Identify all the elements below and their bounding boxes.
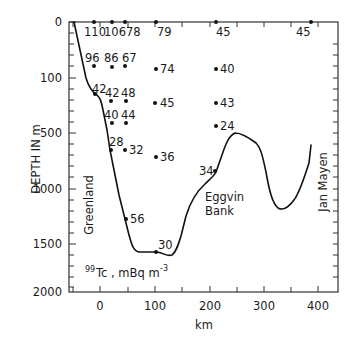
unit-isotope-mass: 99	[85, 265, 95, 274]
point-label: 34	[199, 164, 214, 178]
point-label: 36	[160, 150, 175, 164]
eggvin-bank-label-line2: Bank	[205, 204, 234, 218]
point-label: 110	[84, 25, 106, 39]
point-label: 45	[160, 96, 175, 110]
x-tick-labels: 0 100 200 300 400	[96, 299, 329, 313]
point-label: 45	[296, 25, 311, 39]
unit-text: Tc , mBq m	[95, 266, 160, 280]
unit-annotation: 99 Tc , mBq m -3	[85, 264, 168, 280]
point-label: 28	[109, 135, 124, 149]
depth-section-chart: 0 100 500 1000 1500 2000 0 100 200 300 4…	[0, 0, 357, 347]
eggvin-bank-label-line1: Eggvin	[205, 190, 244, 204]
point-label: 40	[220, 62, 235, 76]
y-tick-2000: 2000	[33, 285, 62, 299]
point-label: 45	[216, 25, 231, 39]
point-label: 56	[130, 212, 145, 226]
y-axis-title: DEPTH IN m	[29, 124, 43, 193]
point-label: 106	[104, 25, 126, 39]
point-label: 96	[85, 51, 100, 65]
x-tick-100: 100	[144, 299, 166, 313]
y-tick-500: 500	[40, 126, 62, 140]
y-tick-100: 100	[40, 71, 62, 85]
y-tick-0: 0	[55, 15, 62, 29]
point-label: 24	[220, 119, 235, 133]
point-label: 44	[121, 108, 136, 122]
point-label: 30	[158, 238, 173, 252]
jan-mayen-label: Jan Mayen	[316, 152, 330, 213]
point-label: 42	[105, 86, 120, 100]
x-tick-300: 300	[253, 299, 275, 313]
unit-exponent: -3	[160, 264, 168, 273]
point-label: 78	[126, 25, 141, 39]
y-axis-ticks	[69, 22, 76, 287]
point-label: 86	[104, 51, 119, 65]
right-axis-ticks	[333, 44, 338, 277]
x-axis-title: km	[195, 318, 213, 332]
x-tick-400: 400	[307, 299, 329, 313]
greenland-label: Greenland	[82, 175, 96, 235]
point-label: 40	[104, 108, 119, 122]
point-label: 32	[129, 143, 144, 157]
point-label: 79	[157, 25, 172, 39]
x-tick-200: 200	[199, 299, 221, 313]
x-tick-0: 0	[96, 299, 103, 313]
point-label: 67	[122, 51, 137, 65]
y-tick-1500: 1500	[33, 237, 62, 251]
point-label: 74	[160, 62, 175, 76]
data-point-labels: 110 106 78 79 45 45 96 86 67 74 40 42 42…	[84, 25, 311, 252]
point-label: 43	[220, 96, 235, 110]
point-label: 48	[121, 86, 136, 100]
